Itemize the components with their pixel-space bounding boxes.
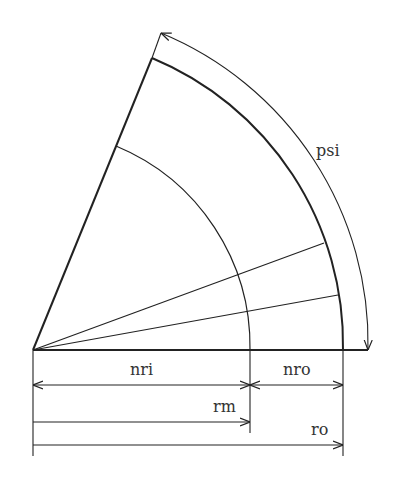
middle-arc: [116, 146, 250, 350]
sector-left-edge: [33, 58, 152, 350]
psi-extension-line: [152, 33, 161, 58]
radial-line-2: [33, 295, 338, 350]
psi-label: psi: [316, 141, 340, 160]
sector-diagram: psi nri nro rm ro: [0, 0, 397, 489]
nri-label: nri: [130, 360, 153, 379]
outer-arc: [152, 58, 343, 350]
nro-label: nro: [283, 360, 311, 379]
radial-line-1: [33, 243, 324, 350]
psi-angle-arc: [161, 33, 368, 350]
ro-label: ro: [311, 420, 328, 439]
rm-label: rm: [213, 397, 236, 416]
